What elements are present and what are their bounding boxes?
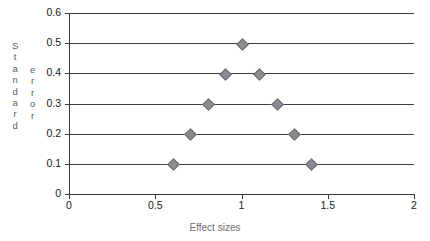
y-tick-label: 0.2 <box>3 127 61 139</box>
data-point-marker <box>167 158 180 171</box>
y-axis-title-char: d <box>13 86 18 97</box>
y-tick-mark <box>65 13 69 14</box>
y-tick-label: 0 <box>3 187 61 199</box>
x-tick-label: 0.5 <box>135 199 175 211</box>
y-tick-label: 0.6 <box>3 6 61 18</box>
data-point-marker <box>271 98 284 111</box>
x-axis-title: Effect sizes <box>0 222 430 233</box>
y-tick-mark <box>65 164 69 165</box>
y-tick-label: 0.5 <box>3 36 61 48</box>
plot-area <box>69 13 414 194</box>
y-axis-title-char: r <box>14 108 17 119</box>
data-point-marker <box>236 38 249 51</box>
data-point-marker <box>253 68 266 81</box>
data-point-marker <box>184 128 197 141</box>
y-tick-label: 0.1 <box>3 157 61 169</box>
y-tick-mark <box>65 104 69 105</box>
gridline <box>69 104 414 105</box>
funnel-plot-chart: Standard error 0.60.50.40.30.20.10 00.51… <box>0 0 430 241</box>
y-tick-mark <box>65 73 69 74</box>
y-tick-label: 0.4 <box>3 66 61 78</box>
y-tick-mark <box>65 134 69 135</box>
data-point-marker <box>202 98 215 111</box>
x-tick-label: 1.5 <box>308 199 348 211</box>
gridline <box>69 134 414 135</box>
x-tick-label: 1 <box>222 199 262 211</box>
y-tick-label: 0.3 <box>3 97 61 109</box>
x-tick-label: 2 <box>394 199 430 211</box>
data-point-marker <box>219 68 232 81</box>
gridline <box>69 13 414 14</box>
x-tick-label: 0 <box>49 199 89 211</box>
data-point-marker <box>288 128 301 141</box>
data-point-marker <box>305 158 318 171</box>
y-axis-title-column-standard: Standard <box>12 40 18 131</box>
y-axis-title-char: r <box>31 110 34 121</box>
y-tick-mark <box>65 43 69 44</box>
y-axis-title-char: t <box>14 51 17 62</box>
gridline <box>69 73 414 74</box>
gridline <box>69 164 414 165</box>
